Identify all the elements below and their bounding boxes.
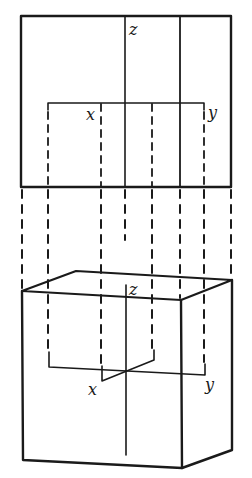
bottom-x-axis [102, 350, 154, 381]
box-top-face [22, 271, 232, 300]
bottom-view [22, 271, 232, 468]
bottom-label-x: x [88, 380, 97, 399]
top-label-z: z [128, 20, 138, 39]
top-label-y: y [207, 103, 218, 122]
top-label-x: x [86, 105, 95, 124]
top-view [21, 16, 231, 187]
projection-diagram: z x y z x y [0, 0, 252, 478]
top-rectangle [21, 16, 231, 187]
bottom-label-y: y [204, 375, 215, 394]
bottom-label-z: z [128, 280, 138, 299]
